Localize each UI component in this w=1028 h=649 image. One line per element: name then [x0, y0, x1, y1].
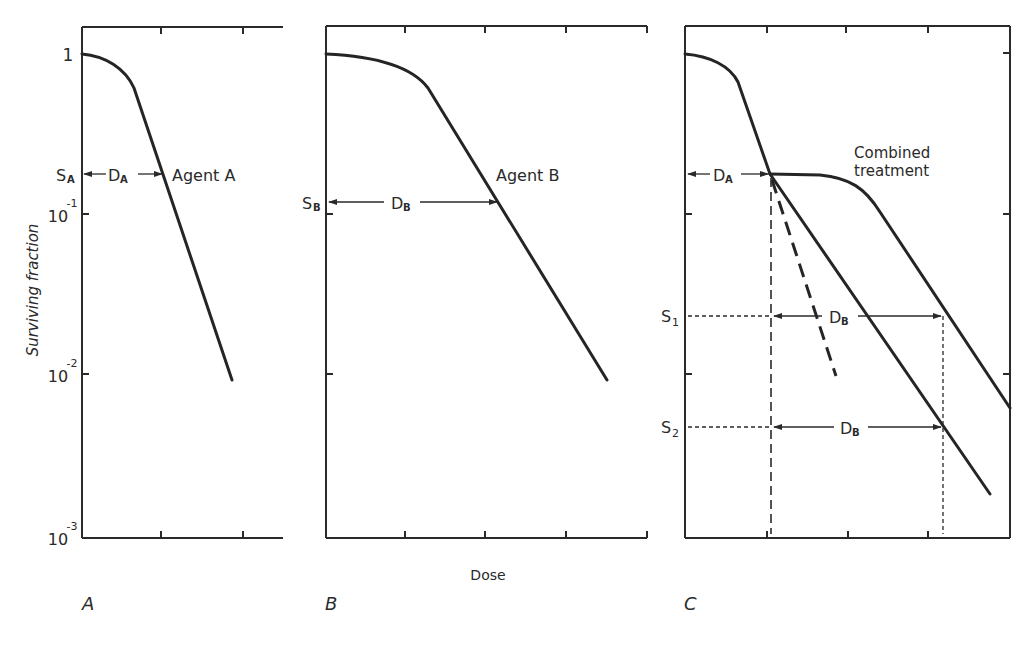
svg-text:S: S	[661, 418, 671, 437]
svg-text:D: D	[391, 194, 403, 213]
svg-text:10: 10	[48, 207, 68, 226]
panel-b: S B D B Agent B Dose B	[302, 26, 647, 614]
x-axis-label: Dose	[470, 567, 505, 583]
agent-b-curve	[326, 54, 607, 380]
ytick-1: 1	[63, 45, 74, 65]
agent-a-extrapolation-dashed	[772, 180, 836, 376]
combined-treatment-curve	[770, 174, 1010, 408]
svg-text:S: S	[56, 166, 66, 185]
svg-text:A: A	[120, 174, 128, 185]
s2-label: S 2	[661, 418, 679, 440]
panel-a: 1 10 -1 10 -2 10 -3 Surviving fraction S…	[24, 27, 283, 614]
panel-letter-c: C	[684, 593, 697, 614]
combined-treatment-label-line2: treatment	[854, 162, 929, 180]
panel-b-axes	[326, 26, 647, 538]
s-b-label: S B	[302, 194, 321, 213]
agent-b-after-a-line	[770, 174, 990, 494]
panel-c-axes	[685, 26, 1010, 538]
combined-treatment-label-line1: Combined	[854, 144, 930, 162]
agent-a-label: Agent A	[172, 166, 235, 185]
svg-text:B: B	[313, 202, 321, 213]
d-a-label: D A	[108, 166, 128, 185]
svg-text:B: B	[841, 316, 849, 327]
panel-a-axes	[82, 27, 283, 538]
ytick-1e-1: 10 -1	[48, 197, 78, 226]
agent-a-curve-c	[685, 54, 770, 174]
ytick-1e-3: 10 -3	[48, 520, 78, 549]
svg-text:-1: -1	[67, 197, 78, 210]
svg-text:10: 10	[48, 367, 68, 386]
svg-text:-2: -2	[67, 357, 78, 370]
svg-text:S: S	[302, 194, 312, 213]
panel-letter-b: B	[325, 593, 337, 614]
svg-text:A: A	[67, 174, 75, 185]
panel-c: D A Combined treatment S 1 S 2 D B D B C	[661, 26, 1010, 614]
svg-text:D: D	[108, 166, 120, 185]
d-a-label-c: D A	[713, 166, 733, 185]
svg-text:1: 1	[672, 316, 679, 329]
svg-text:B: B	[403, 202, 411, 213]
agent-a-curve	[82, 54, 232, 380]
svg-text:S: S	[661, 307, 671, 326]
panel-letter-a: A	[81, 593, 94, 614]
svg-text:-3: -3	[67, 520, 78, 533]
s1-label: S 1	[661, 307, 679, 329]
ytick-1e-2: 10 -2	[48, 357, 78, 386]
svg-text:D: D	[840, 419, 852, 438]
svg-text:B: B	[852, 427, 860, 438]
svg-text:D: D	[829, 308, 841, 327]
svg-text:2: 2	[672, 427, 679, 440]
svg-text:A: A	[725, 174, 733, 185]
survival-curves-figure: 1 10 -1 10 -2 10 -3 Surviving fraction S…	[0, 0, 1028, 649]
svg-text:D: D	[713, 166, 725, 185]
d-b-label: D B	[391, 194, 411, 213]
agent-b-label: Agent B	[496, 166, 559, 185]
d-b1-label: D B	[829, 308, 849, 327]
s-a-label: S A	[56, 166, 75, 185]
svg-text:10: 10	[48, 530, 68, 549]
d-b2-label: D B	[840, 419, 860, 438]
y-axis-label: Surviving fraction	[24, 224, 42, 357]
